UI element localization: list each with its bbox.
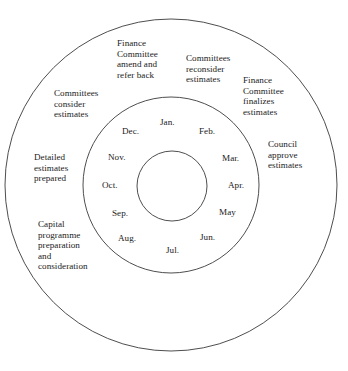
phase-label-committees-consider: Committees consider estimates bbox=[54, 88, 98, 120]
month-nov-label: Nov. bbox=[108, 152, 126, 162]
outer-ring-circle bbox=[5, 19, 337, 351]
month-dec-label: Dec. bbox=[122, 126, 139, 136]
month-mar-label: Mar. bbox=[222, 153, 239, 163]
diagram-canvas: Finance Committee amend and refer backCo… bbox=[0, 0, 348, 371]
month-aug-label: Aug. bbox=[118, 233, 136, 243]
month-jul-label: Jul. bbox=[166, 245, 179, 255]
inner-ring-circle bbox=[137, 151, 207, 221]
phase-label-finance-committee-finalizes: Finance Committee finalizes estimates bbox=[243, 75, 284, 117]
month-oct-label: Oct. bbox=[102, 180, 118, 190]
phase-label-detailed-estimates-prepared: Detailed estimates prepared bbox=[34, 152, 68, 184]
phase-label-committees-reconsider: Committees reconsider estimates bbox=[186, 53, 230, 85]
phase-label-finance-committee-amend: Finance Committee amend and refer back bbox=[117, 38, 158, 80]
month-feb-label: Feb. bbox=[199, 126, 215, 136]
month-apr-label: Apr. bbox=[228, 180, 244, 190]
month-sep-label: Sep. bbox=[112, 208, 128, 218]
phase-label-capital-programme: Capital programme preparation and consid… bbox=[38, 219, 88, 272]
month-jan-label: Jan. bbox=[160, 117, 175, 127]
month-may-label: May bbox=[219, 207, 236, 217]
phase-label-council-approve: Council approve estimates bbox=[268, 139, 302, 171]
month-jun-label: Jun. bbox=[200, 232, 215, 242]
concentric-rings-group bbox=[0, 0, 348, 371]
